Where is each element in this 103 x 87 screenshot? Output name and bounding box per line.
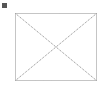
image-placeholder-frame[interactable] — [0, 0, 103, 87]
canvas — [0, 0, 103, 87]
